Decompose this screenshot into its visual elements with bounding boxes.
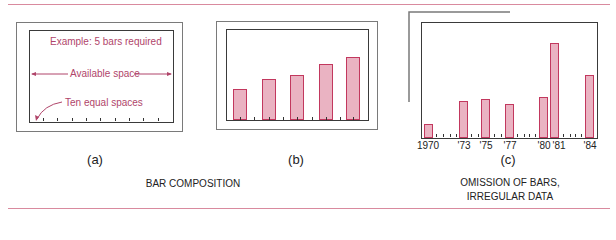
bar-1970 xyxy=(424,124,433,138)
omission-caption-line2: IRREGULAR DATA xyxy=(440,190,580,203)
tick xyxy=(436,134,437,137)
tick xyxy=(535,134,536,137)
tick xyxy=(456,134,457,137)
x-label-84: '84 xyxy=(578,140,602,151)
tick xyxy=(443,134,444,137)
bar-1984 xyxy=(585,75,594,138)
panel-c-label: (c) xyxy=(493,152,523,167)
tick xyxy=(524,134,525,137)
tick xyxy=(581,134,582,137)
tick xyxy=(494,134,495,137)
bar-1981 xyxy=(550,43,559,138)
x-label-75: '75 xyxy=(474,140,498,151)
tick xyxy=(450,134,451,137)
x-label-73: '73 xyxy=(452,140,476,151)
tick xyxy=(478,134,479,137)
tick xyxy=(563,134,564,137)
x-label-77: '77 xyxy=(498,140,522,151)
bar-1980 xyxy=(539,97,548,138)
tick xyxy=(501,134,502,137)
tick xyxy=(575,134,576,137)
x-label-1970: 1970 xyxy=(412,140,444,151)
tick xyxy=(529,134,530,137)
tick xyxy=(471,134,472,137)
bar-1975 xyxy=(481,99,490,138)
omission-caption-line1: OMISSION OF BARS, xyxy=(440,176,580,189)
tick xyxy=(517,134,518,137)
bar-1977 xyxy=(505,104,514,138)
bar-1973 xyxy=(459,101,468,138)
x-label-81: '81 xyxy=(547,140,571,151)
tick xyxy=(570,134,571,137)
